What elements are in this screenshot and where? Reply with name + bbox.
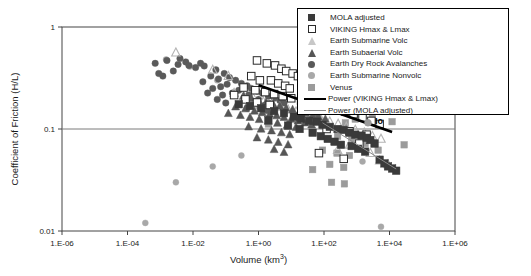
data-point bbox=[240, 84, 248, 92]
data-point bbox=[224, 109, 232, 117]
y-tick-label: 1 bbox=[51, 23, 56, 32]
data-point bbox=[232, 77, 239, 84]
data-point bbox=[142, 220, 148, 226]
legend-marker-gray-square-icon bbox=[304, 84, 330, 91]
data-point bbox=[392, 167, 400, 175]
data-point bbox=[340, 155, 348, 163]
legend-item: Earth Submarine Volc bbox=[304, 35, 508, 47]
legend-item: MOLA adjusted bbox=[304, 12, 508, 24]
x-tick-label: 1.E+04 bbox=[377, 239, 403, 248]
data-point bbox=[284, 122, 292, 130]
legend-marker-open-square-icon bbox=[304, 25, 330, 33]
legend-swatch bbox=[308, 14, 315, 21]
data-point bbox=[274, 80, 282, 88]
data-point bbox=[219, 92, 226, 99]
legend-item: Earth Submarine Nonvolc bbox=[304, 70, 508, 82]
legend-label: Earth Submarine Nonvolc bbox=[330, 70, 421, 82]
data-point bbox=[375, 147, 382, 154]
data-point bbox=[337, 141, 345, 149]
legend-item: Power (MOLA adjusted) bbox=[304, 105, 508, 117]
data-point bbox=[200, 79, 207, 86]
data-point bbox=[265, 116, 273, 124]
data-point bbox=[253, 133, 261, 141]
data-point bbox=[315, 149, 323, 157]
legend-swatch bbox=[308, 37, 316, 45]
data-point bbox=[257, 104, 265, 112]
x-tick-label: 1.E-04 bbox=[116, 239, 140, 248]
legend-swatch bbox=[308, 72, 315, 79]
legend-item: Power (VIKING Hmax & Lmax) bbox=[304, 93, 508, 105]
data-point bbox=[328, 179, 335, 186]
legend-item: Earth Subaerial Volc bbox=[304, 47, 508, 59]
data-point bbox=[235, 100, 243, 108]
data-point bbox=[247, 72, 255, 80]
data-point bbox=[354, 145, 362, 153]
data-point bbox=[170, 68, 177, 75]
data-point bbox=[296, 125, 304, 133]
data-point bbox=[172, 48, 180, 56]
legend-marker-thin-line-icon bbox=[304, 110, 328, 111]
data-point bbox=[224, 81, 231, 88]
data-point bbox=[327, 161, 334, 168]
data-point bbox=[340, 164, 347, 171]
x-tick-label: 1.E-02 bbox=[181, 239, 205, 248]
legend-label: Earth Subaerial Volc bbox=[330, 47, 403, 59]
data-point bbox=[246, 102, 254, 110]
data-point bbox=[201, 63, 208, 70]
data-point bbox=[210, 163, 216, 169]
x-tick-label: 1.E+06 bbox=[442, 239, 468, 248]
data-point bbox=[389, 118, 396, 125]
data-point bbox=[164, 57, 171, 64]
data-point bbox=[256, 77, 264, 85]
data-point bbox=[270, 145, 278, 153]
legend-label: Venus bbox=[330, 82, 352, 94]
data-point bbox=[209, 85, 216, 92]
data-point bbox=[238, 152, 244, 158]
io-annotation-marker bbox=[364, 119, 371, 126]
data-point bbox=[152, 60, 159, 67]
x-tick-label: 1.E-06 bbox=[50, 239, 74, 248]
y-tick-label: 0.01 bbox=[39, 227, 55, 236]
data-point bbox=[214, 96, 221, 103]
data-point bbox=[245, 122, 253, 130]
data-point bbox=[263, 60, 271, 68]
data-point bbox=[280, 148, 288, 156]
legend-marker-filled-circle-icon bbox=[304, 61, 330, 68]
io-annotation-label: Io bbox=[375, 116, 383, 126]
data-point bbox=[255, 115, 263, 123]
data-point bbox=[204, 90, 211, 97]
legend-swatch bbox=[304, 98, 326, 100]
legend-swatch bbox=[308, 61, 315, 68]
data-point bbox=[305, 117, 313, 125]
data-point bbox=[378, 224, 384, 230]
legend-label: VIKING Hmax & Lmax bbox=[330, 24, 410, 36]
legend-item: Venus bbox=[304, 82, 508, 94]
data-point bbox=[280, 109, 288, 117]
legend-swatch bbox=[308, 25, 316, 33]
legend-label: Earth Dry Rock Avalanches bbox=[330, 58, 427, 70]
chart-legend: MOLA adjustedVIKING Hmax & LmaxEarth Sub… bbox=[297, 8, 509, 115]
legend-label: MOLA adjusted bbox=[330, 12, 385, 24]
data-point bbox=[173, 179, 179, 185]
data-point bbox=[341, 181, 348, 188]
data-point bbox=[257, 125, 265, 133]
legend-label: Earth Submarine Volc bbox=[330, 35, 407, 47]
data-point bbox=[230, 91, 238, 99]
legend-label: Power (MOLA adjusted) bbox=[328, 105, 413, 117]
data-point bbox=[223, 100, 230, 107]
data-point bbox=[186, 62, 193, 69]
legend-swatch bbox=[308, 84, 315, 91]
legend-swatch bbox=[308, 49, 316, 57]
data-point bbox=[309, 129, 317, 137]
data-point bbox=[175, 61, 182, 68]
x-tick-label: 1.E+00 bbox=[246, 239, 272, 248]
legend-swatch bbox=[304, 110, 326, 111]
data-point bbox=[286, 130, 294, 138]
data-point bbox=[267, 77, 275, 85]
legend-item: Earth Dry Rock Avalanches bbox=[304, 58, 508, 70]
legend-marker-filled-triangle-icon bbox=[304, 49, 330, 57]
data-point bbox=[360, 159, 366, 165]
legend-label: Power (VIKING Hmax & Lmax) bbox=[328, 93, 438, 105]
y-tick-label: 0.1 bbox=[44, 125, 56, 134]
data-point bbox=[270, 107, 278, 115]
